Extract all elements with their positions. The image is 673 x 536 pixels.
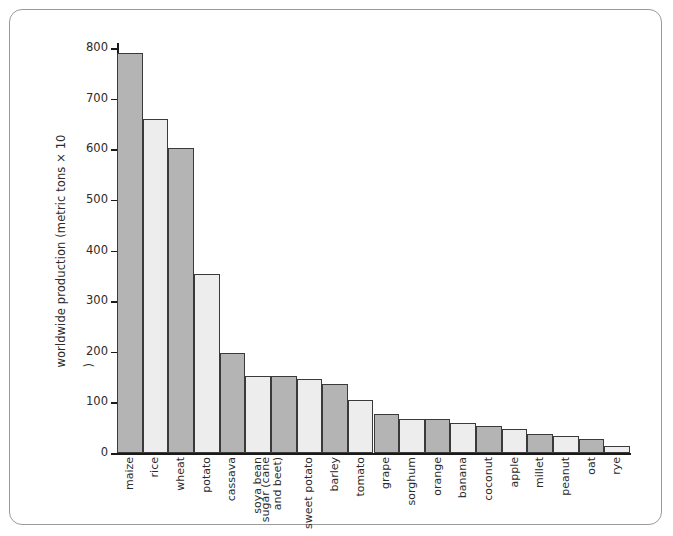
bar[interactable] [271,376,297,453]
bar[interactable] [527,434,553,453]
y-tick-label: 400 [86,245,108,257]
y-tick-label: 200 [86,346,108,358]
bar[interactable] [117,53,143,453]
y-tick-label: 0 [101,447,108,459]
y-tick-label: 300 [86,295,108,307]
x-axis-line [117,453,631,455]
bar[interactable] [348,400,374,453]
y-tick-label: 600 [86,144,108,156]
bar[interactable] [220,353,246,453]
y-tick-mark [111,48,117,50]
y-tick-label: 100 [86,397,108,409]
bar[interactable] [425,419,451,453]
bar[interactable] [476,426,502,453]
figure-frame: worldwide production (metric tons × 106)… [9,9,662,525]
bar[interactable] [245,376,271,453]
bar[interactable] [374,414,400,453]
y-tick-mark [111,453,117,455]
bar[interactable] [604,446,630,453]
bar[interactable] [579,439,605,453]
bar[interactable] [168,148,194,453]
bar[interactable] [450,423,476,453]
bar[interactable] [194,274,220,453]
bar[interactable] [553,436,579,453]
x-axis-labels: maizericewheatpotatocassavasoya beansuga… [117,457,631,536]
bar[interactable] [399,419,425,453]
y-tick-label: 700 [86,93,108,105]
bar[interactable] [143,119,169,453]
plot-area: 0100200300400500600700800 [117,48,630,453]
bar[interactable] [297,379,323,453]
y-axis-title: worldwide production (metric tons × 106) [66,48,84,453]
bar[interactable] [502,429,528,453]
bar[interactable] [322,384,348,453]
y-tick-label: 500 [86,194,108,206]
y-tick-label: 800 [86,42,108,54]
